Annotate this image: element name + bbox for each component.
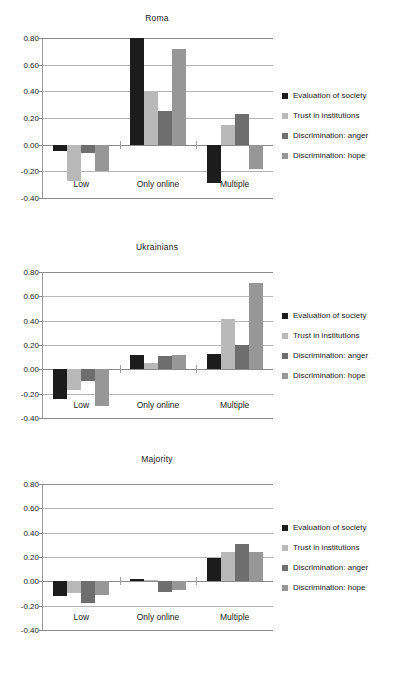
bar <box>53 581 67 596</box>
bar <box>221 319 235 369</box>
bar <box>81 145 95 153</box>
y-axis-tick-label: 0.40 <box>23 316 39 325</box>
bar <box>67 581 81 593</box>
category-separator <box>120 141 121 149</box>
gridline <box>43 296 273 297</box>
bar <box>249 552 263 581</box>
chart-panel: Majority0.800.600.400.200.00-0.20-0.40Lo… <box>0 442 414 669</box>
y-axis-tick-label: -0.40 <box>21 194 39 203</box>
x-axis-line <box>43 630 273 631</box>
y-axis-tick-label: 0.40 <box>23 87 39 96</box>
legend-item: Discrimination: hope <box>282 150 368 161</box>
y-axis-tick-label: 0.00 <box>23 140 39 149</box>
bar <box>53 369 67 398</box>
chart-title: Ukrainians <box>42 242 272 252</box>
y-axis-tickmark <box>39 508 43 509</box>
chart-title: Majority <box>42 454 272 464</box>
y-axis-tickmark <box>39 533 43 534</box>
bar <box>130 38 144 145</box>
bar <box>235 544 249 582</box>
category-separator <box>120 577 121 585</box>
y-axis-tickmark <box>39 65 43 66</box>
gridline <box>43 533 273 534</box>
x-axis-category-label: Multiple <box>196 400 273 410</box>
legend-swatch-icon <box>282 133 288 139</box>
y-axis-tick-label: -0.40 <box>21 414 39 423</box>
y-axis-tickmark <box>39 321 43 322</box>
bar <box>207 354 221 370</box>
y-axis-tick-label: 0.20 <box>23 114 39 123</box>
chart-panel: Ukrainians0.800.600.400.200.00-0.20-0.40… <box>0 230 414 442</box>
legend-item-label: Discrimination: anger <box>293 130 368 141</box>
legend-item-label: Discrimination: hope <box>293 370 365 381</box>
legend-item: Trust in institutions <box>282 110 368 121</box>
bar <box>144 91 158 144</box>
legend-item-label: Trust in institutions <box>293 330 359 341</box>
legend-item: Trust in institutions <box>282 542 368 553</box>
legend-swatch-icon <box>282 373 288 379</box>
y-axis-tickmark <box>39 296 43 297</box>
y-axis-tickmark <box>39 118 43 119</box>
bar <box>67 145 81 181</box>
y-axis-tickmark <box>39 557 43 558</box>
x-axis-category-label: Only online <box>120 179 197 189</box>
gridline <box>43 606 273 607</box>
legend-item-label: Evaluation of society <box>293 310 366 321</box>
bar <box>158 581 172 592</box>
legend-swatch-icon <box>282 93 288 99</box>
y-axis-tick-label: 0.20 <box>23 341 39 350</box>
x-axis-category-label: Multiple <box>196 612 273 622</box>
legend-item: Discrimination: hope <box>282 370 368 381</box>
bar <box>53 145 67 152</box>
legend-item-label: Discrimination: anger <box>293 562 368 573</box>
y-axis-tick-label: 0.80 <box>23 34 39 43</box>
legend-item-label: Evaluation of society <box>293 522 366 533</box>
y-axis-tick-label: 0.80 <box>23 268 39 277</box>
x-axis-category-label: Only online <box>120 612 197 622</box>
bar <box>235 114 249 145</box>
gridline <box>43 394 273 395</box>
x-axis-category-label: Multiple <box>196 179 273 189</box>
x-axis-category-label: Low <box>43 179 120 189</box>
legend-item: Discrimination: anger <box>282 350 368 361</box>
bar <box>249 283 263 369</box>
legend-item-label: Trust in institutions <box>293 542 359 553</box>
y-axis-tick-label: 0.20 <box>23 553 39 562</box>
y-axis-tick-label: 0.60 <box>23 60 39 69</box>
legend-item: Evaluation of society <box>282 522 368 533</box>
bar <box>130 355 144 370</box>
plot-area: 0.800.600.400.200.00-0.20-0.40LowOnly on… <box>42 272 273 418</box>
gridline <box>43 272 273 273</box>
bar <box>158 356 172 369</box>
bar <box>81 581 95 603</box>
legend-item: Discrimination: anger <box>282 130 368 141</box>
y-axis-tickmark <box>39 394 43 395</box>
legend-swatch-icon <box>282 333 288 339</box>
gridline <box>43 508 273 509</box>
gridline <box>43 321 273 322</box>
bar <box>130 579 144 581</box>
legend-item: Evaluation of society <box>282 90 368 101</box>
legend-swatch-icon <box>282 525 288 531</box>
bar <box>81 369 95 381</box>
legend-swatch-icon <box>282 113 288 119</box>
bar <box>172 49 186 145</box>
bar <box>158 111 172 144</box>
x-axis-line <box>43 418 273 419</box>
chart-title: Roma <box>42 13 272 23</box>
bar <box>172 355 186 370</box>
bar <box>207 145 221 184</box>
legend-swatch-icon <box>282 545 288 551</box>
y-axis-tick-label: -0.20 <box>21 601 39 610</box>
legend-item: Discrimination: hope <box>282 582 368 593</box>
y-axis-tick-label: -0.20 <box>21 389 39 398</box>
chart-legend: Evaluation of societyTrust in institutio… <box>282 90 368 170</box>
y-axis-tick-label: -0.40 <box>21 626 39 635</box>
bar <box>249 145 263 169</box>
y-axis-tick-label: 0.00 <box>23 365 39 374</box>
legend-item-label: Discrimination: hope <box>293 582 365 593</box>
legend-item-label: Evaluation of society <box>293 90 366 101</box>
legend-item-label: Trust in institutions <box>293 110 359 121</box>
legend-item: Trust in institutions <box>282 330 368 341</box>
bar <box>95 581 109 594</box>
